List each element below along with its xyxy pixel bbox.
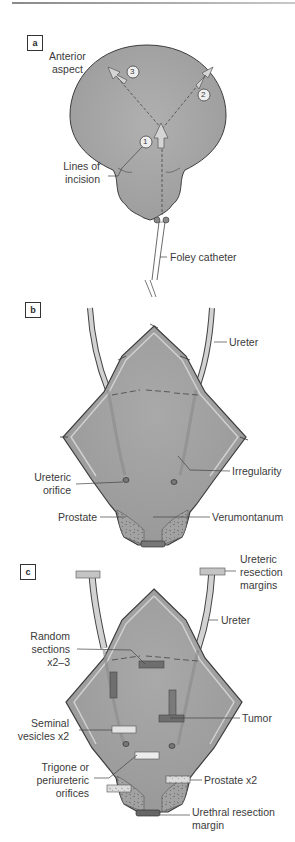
marker-label-1: 1 xyxy=(143,136,147,149)
prostate-section-right xyxy=(166,776,190,783)
label-ureter-c: Ureter xyxy=(221,614,250,627)
random-section-2 xyxy=(110,672,117,698)
trigone-section xyxy=(135,752,159,759)
label-ureteric-orifice-1: Ureteric xyxy=(34,471,71,484)
panel-tag-c: c xyxy=(20,564,36,580)
label-random-sections-1: Random xyxy=(30,630,70,643)
label-lines-of-incision-2: incision xyxy=(65,173,100,186)
label-anterior-1: Anterior xyxy=(49,50,86,63)
label-urethral-margin-2: margin xyxy=(192,819,224,832)
label-prostate-x2: Prostate x2 xyxy=(204,774,257,787)
panel-tag-b: b xyxy=(25,302,41,318)
label-seminal-vesicles-1: Seminal xyxy=(31,717,69,730)
label-ureteric-orifice-2: orifice xyxy=(43,484,71,497)
label-anterior-2: aspect xyxy=(52,63,83,76)
label-trigone-1: Trigone or xyxy=(42,761,89,774)
urethral-margin-section xyxy=(136,810,160,816)
label-seminal-vesicles-2: vesicles x2 xyxy=(18,730,69,743)
label-random-sections-3: x2–3 xyxy=(47,656,70,669)
label-tumor: Tumor xyxy=(242,712,272,725)
ureteric-margin-left xyxy=(76,571,100,578)
label-ureteric-resection-2: resection xyxy=(240,566,283,579)
label-ureteric-resection-1: Ureteric xyxy=(240,553,277,566)
label-trigone-3: orifices xyxy=(56,787,89,800)
label-random-sections-2: sections xyxy=(31,643,70,656)
panel-tag-a: a xyxy=(27,35,43,51)
label-ureteric-resection-3: margins xyxy=(240,579,277,592)
prostate-section-left xyxy=(107,785,131,792)
label-trigone-2: periureteric xyxy=(36,774,89,787)
label-urethral-margin-1: Urethral resection xyxy=(192,806,275,819)
label-irregularity: Irregularity xyxy=(232,465,282,478)
tumor-section xyxy=(159,715,184,722)
ureteric-margin-right xyxy=(200,568,225,575)
label-prostate: Prostate xyxy=(58,511,97,524)
label-lines-of-incision-1: Lines of xyxy=(63,160,100,173)
marker-label-3: 3 xyxy=(130,66,134,79)
seminal-vesicle-section xyxy=(112,726,136,733)
tumor-section-vertical xyxy=(169,690,176,717)
label-ureter-b: Ureter xyxy=(229,336,258,349)
label-foley-catheter: Foley catheter xyxy=(170,251,237,264)
label-verumontanum: Verumontanum xyxy=(212,511,283,524)
marker-label-2: 2 xyxy=(201,89,205,102)
